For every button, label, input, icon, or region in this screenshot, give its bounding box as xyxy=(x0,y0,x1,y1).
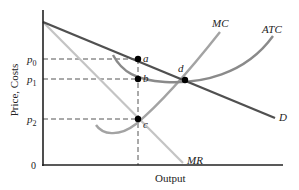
label-b: b xyxy=(143,72,149,84)
point-c xyxy=(135,116,141,122)
label-p0: p0 xyxy=(26,53,37,68)
label-atc: ATC xyxy=(261,23,282,35)
label-p1: p1 xyxy=(26,73,37,88)
y-axis-title: Price, Costs xyxy=(8,64,20,117)
guide-lines xyxy=(43,59,138,165)
label-mr: MR xyxy=(186,154,203,166)
label-p2: p2 xyxy=(26,113,37,128)
label-mc: MC xyxy=(211,17,229,29)
label-demand: D xyxy=(278,111,287,123)
label-d-point: d xyxy=(178,62,184,74)
label-c: c xyxy=(143,118,148,130)
x-axis-title: Output xyxy=(155,172,186,184)
mc-curve xyxy=(96,32,220,133)
monopoly-diagram: a b c d MC ATC D MR p0 p1 p2 0 Price, Co… xyxy=(0,0,299,190)
point-d xyxy=(182,77,188,83)
point-b xyxy=(135,76,141,82)
label-origin: 0 xyxy=(31,160,36,171)
label-a: a xyxy=(143,52,149,64)
mr-curve xyxy=(43,22,183,163)
point-a xyxy=(135,56,141,62)
